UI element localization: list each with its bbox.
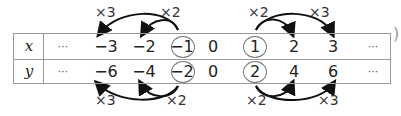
label-bottom-right-x2: ×2 [246, 92, 267, 108]
edge-mark: ) [393, 24, 399, 43]
cell-circled: 1 [237, 34, 273, 59]
label-top-left-x3: ×3 [95, 4, 116, 20]
table-row-x: x ··· −3 −2 −1 0 1 2 3 ··· [14, 34, 390, 60]
row-header-x: x [11, 34, 47, 59]
cell: −3 [88, 34, 124, 59]
cell: 0 [195, 34, 231, 59]
cell: ··· [355, 34, 391, 59]
label-bottom-left-x3: ×3 [95, 92, 116, 108]
arrow-top-right-x2 [256, 19, 292, 33]
cell: 6 [315, 59, 351, 84]
cell: −4 [126, 59, 162, 84]
cell: 0 [195, 59, 231, 84]
cell-circled: 2 [237, 59, 273, 84]
cell: ··· [45, 34, 81, 59]
cell: 3 [315, 34, 351, 59]
label-bottom-left-x2: ×2 [166, 92, 187, 108]
value-table: x ··· −3 −2 −1 0 1 2 3 ··· y ··· −6 −4 −… [13, 33, 391, 84]
label-top-left-x2: ×2 [160, 4, 181, 20]
label-top-right-x2: ×2 [248, 4, 269, 20]
table-row-y: y ··· −6 −4 −2 0 2 4 6 ··· [14, 59, 390, 84]
cell: −6 [88, 59, 124, 84]
row-header-y: y [11, 59, 47, 84]
cell: 2 [276, 34, 312, 59]
cell: 4 [276, 59, 312, 84]
cell: −2 [126, 34, 162, 59]
cell: ··· [355, 59, 391, 84]
label-top-right-x3: ×3 [309, 4, 330, 20]
label-bottom-right-x3: ×3 [318, 92, 339, 108]
cell: ··· [45, 59, 81, 84]
